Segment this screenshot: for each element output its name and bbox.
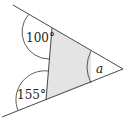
angle-label-a: a <box>96 62 103 76</box>
angle-label-bottom: 155° <box>17 88 46 102</box>
angle-diagram: 100° 155° a <box>0 0 128 126</box>
angle-label-top: 100° <box>26 31 55 45</box>
